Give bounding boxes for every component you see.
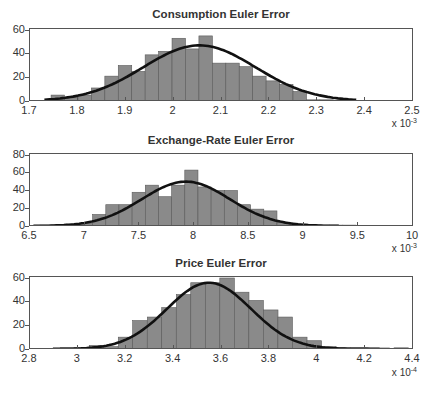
- y-tick-label: 60: [1, 165, 25, 177]
- x-tick: [77, 97, 78, 101]
- histogram-svg: [30, 277, 413, 349]
- histogram-bar: [360, 100, 373, 101]
- histogram-bar: [158, 197, 171, 226]
- x-tick-label: 1.9: [117, 104, 132, 116]
- histogram-bar: [53, 225, 66, 226]
- x-tick-label: 3.6: [213, 352, 228, 364]
- histogram-bar: [40, 225, 53, 226]
- exponent-power: -3: [411, 242, 417, 249]
- exponent-base: x 10: [392, 243, 411, 254]
- histogram-bar: [172, 185, 185, 226]
- chart-title: Exchange-Rate Euler Error: [29, 134, 413, 146]
- exponent-power: -3: [411, 117, 417, 124]
- x-tick: [173, 345, 174, 349]
- y-tick-label: 40: [1, 183, 25, 195]
- histogram-bar: [162, 308, 177, 349]
- x-tick: [248, 222, 249, 226]
- x-tick-label: 8: [190, 229, 196, 241]
- histogram-bar: [159, 51, 172, 101]
- x-tick: [77, 345, 78, 349]
- x-tick: [268, 97, 269, 101]
- x-tick: [125, 345, 126, 349]
- x-tick: [364, 345, 365, 349]
- x-tick: [173, 97, 174, 101]
- histogram-bar: [185, 170, 198, 226]
- histogram-bar: [212, 63, 225, 101]
- y-tick-label: 20: [1, 318, 25, 330]
- histogram-bar: [394, 348, 409, 349]
- x-tick-label: 9.5: [350, 229, 365, 241]
- chart-title: Price Euler Error: [29, 257, 413, 269]
- histogram-bar: [316, 225, 329, 226]
- x-tick: [29, 97, 30, 101]
- plot-area: [29, 276, 413, 349]
- x-tick: [357, 222, 358, 226]
- x-tick-label: 2.3: [309, 104, 324, 116]
- x-tick: [125, 97, 126, 101]
- histogram-bar: [185, 49, 198, 101]
- histogram-bar: [253, 76, 266, 101]
- x-tick-label: 3.2: [117, 352, 132, 364]
- x-tick: [303, 222, 304, 226]
- x-tick-label: 6.5: [21, 229, 36, 241]
- histogram-svg: [30, 29, 413, 101]
- y-tick: [25, 172, 29, 173]
- x-tick-label: 4.2: [356, 352, 371, 364]
- y-tick-label: 20: [1, 201, 25, 213]
- histogram-bar: [118, 66, 131, 102]
- y-tick: [25, 77, 29, 78]
- plot-area: [29, 28, 413, 101]
- x-tick: [412, 345, 413, 349]
- x-tick-label: 3.4: [165, 352, 180, 364]
- x-tick-label: 1.7: [21, 104, 36, 116]
- exponent-base: x 10: [392, 367, 411, 378]
- x-tick: [364, 97, 365, 101]
- histogram-bar: [343, 225, 356, 226]
- y-tick: [25, 325, 29, 326]
- x-tick: [138, 222, 139, 226]
- x-tick-label: 3: [74, 352, 80, 364]
- x-tick-label: 10: [406, 229, 418, 241]
- y-tick: [25, 155, 29, 156]
- y-tick-label: 40: [1, 294, 25, 306]
- y-tick-label: 60: [1, 271, 25, 283]
- histogram-bar: [320, 100, 333, 101]
- y-tick: [25, 208, 29, 209]
- exponent-base: x 10: [392, 118, 411, 129]
- x-tick: [316, 97, 317, 101]
- x-tick: [316, 345, 317, 349]
- x-tick: [29, 345, 30, 349]
- y-tick-label: 80: [1, 148, 25, 160]
- x-tick: [412, 222, 413, 226]
- histogram-bar: [191, 283, 206, 349]
- x-tick-label: 1.8: [69, 104, 84, 116]
- x-tick-label: 2.8: [21, 352, 36, 364]
- y-tick: [25, 30, 29, 31]
- y-tick-label: 40: [1, 46, 25, 58]
- axis-exponent-label: x 10-3: [392, 117, 417, 129]
- histogram-bar: [205, 283, 220, 349]
- chart-title: Consumption Euler Error: [29, 8, 413, 20]
- x-tick: [84, 222, 85, 226]
- histogram-bar: [105, 76, 118, 101]
- x-tick-label: 4.4: [404, 352, 419, 364]
- x-tick-label: 9: [300, 229, 306, 241]
- x-tick: [193, 222, 194, 226]
- y-tick-label: 20: [1, 70, 25, 82]
- x-tick-label: 2.5: [404, 104, 419, 116]
- y-tick: [25, 53, 29, 54]
- x-tick: [29, 222, 30, 226]
- histogram-bar: [306, 100, 319, 101]
- axis-exponent-label: x 10-3: [392, 242, 417, 254]
- histogram-bar: [330, 225, 343, 226]
- x-tick-label: 4: [313, 352, 319, 364]
- y-tick: [25, 190, 29, 191]
- axis-exponent-label: x 10-4: [392, 366, 417, 378]
- histogram-bar: [132, 71, 145, 101]
- x-tick-label: 3.8: [261, 352, 276, 364]
- histogram-bar: [198, 187, 211, 226]
- x-tick: [221, 345, 222, 349]
- histogram-bar: [333, 100, 346, 101]
- x-tick: [221, 97, 222, 101]
- histogram-bar: [293, 92, 306, 101]
